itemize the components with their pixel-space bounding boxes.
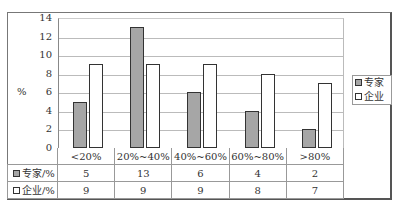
- bar-expert: [245, 111, 259, 148]
- table-cell: 13: [115, 165, 172, 182]
- bar-expert: [130, 27, 144, 148]
- table-row: 企业/% 9 9 9 8 7: [7, 182, 344, 199]
- bar-expert: [187, 92, 201, 148]
- table-row-header: 专家/%: [7, 165, 58, 182]
- gridline: [59, 38, 343, 39]
- table-row: 专家/% 5 13 6 4 2: [7, 165, 344, 182]
- table-cell: 4: [230, 165, 287, 182]
- row-label: 企业/%: [22, 185, 55, 196]
- legend-label: 企业: [364, 91, 384, 102]
- table-cell: 9: [58, 182, 115, 199]
- bar-expert: [302, 129, 316, 148]
- legend-swatch-icon: [13, 187, 20, 194]
- y-tick-label: 2: [24, 124, 52, 134]
- table-cell: 9: [172, 182, 229, 199]
- bar-enterprise: [146, 64, 160, 148]
- table-category: 60%~80%: [230, 148, 287, 165]
- table-category: <20%: [58, 148, 115, 165]
- y-tick-label: 10: [24, 50, 52, 60]
- table-category: >80%: [287, 148, 344, 165]
- table-cell: 9: [115, 182, 172, 199]
- table-category-row: <20% 20%~40% 40%~60% 60%~80% >80%: [7, 148, 344, 165]
- table-cell: 8: [230, 182, 287, 199]
- table-row-header: 企业/%: [7, 182, 58, 199]
- table-cell: 7: [287, 182, 344, 199]
- bar-enterprise: [203, 64, 217, 148]
- bar-enterprise: [89, 64, 103, 148]
- table-cell: 5: [58, 165, 115, 182]
- y-tick-label: 4: [24, 106, 52, 116]
- plot-area: [58, 18, 344, 148]
- table-cell: 6: [172, 165, 229, 182]
- legend-item-enterprise: 企业: [353, 90, 391, 104]
- legend-label: 专家: [364, 77, 384, 88]
- bar-expert: [73, 102, 87, 148]
- legend-swatch-icon: [13, 170, 20, 177]
- chart-legend: 专家 企业: [352, 75, 392, 105]
- legend-item-expert: 专家: [353, 76, 391, 90]
- table-category: 40%~60%: [172, 148, 229, 165]
- table-category: 20%~40%: [115, 148, 172, 165]
- y-tick-label: 14: [24, 13, 52, 23]
- y-tick-label: 12: [24, 32, 52, 42]
- legend-swatch-icon: [355, 79, 362, 86]
- bar-enterprise: [318, 83, 332, 148]
- table-corner: [7, 148, 58, 165]
- gridline: [59, 56, 343, 57]
- legend-swatch-icon: [355, 93, 362, 100]
- row-label: 专家/%: [22, 168, 55, 179]
- bar-enterprise: [261, 74, 275, 148]
- y-tick-label: 8: [24, 69, 52, 79]
- table-cell: 2: [287, 165, 344, 182]
- y-tick-label: 6: [24, 87, 52, 97]
